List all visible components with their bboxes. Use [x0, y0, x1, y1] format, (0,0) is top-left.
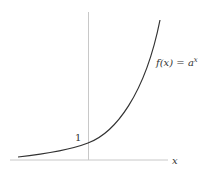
function-label: f(x) = ax — [155, 56, 198, 68]
x-axis-label: x — [172, 155, 178, 166]
y-intercept-label: 1 — [75, 132, 81, 143]
exponential-graph: 1 x f(x) = ax — [0, 0, 218, 176]
function-exponent: x — [194, 56, 198, 64]
